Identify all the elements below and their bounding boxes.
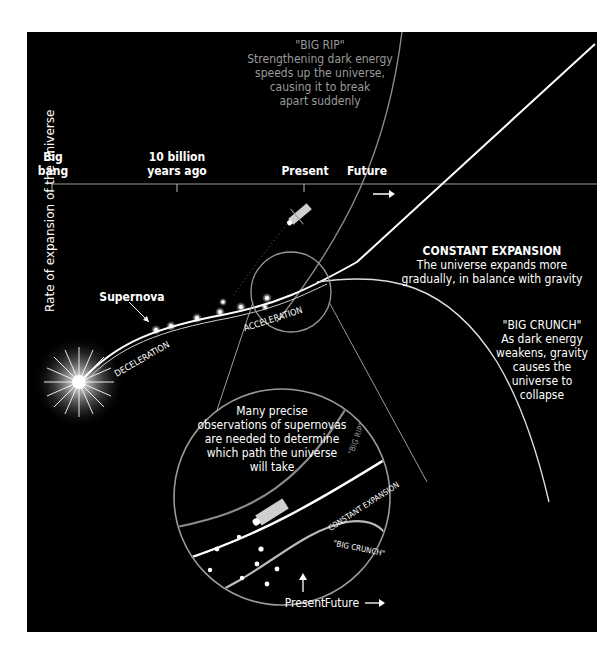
tick-label-big-bang: Bigbang [37,150,69,178]
supernova-label: Supernova [97,290,167,304]
inset-future-label: Future [317,596,367,610]
big-rip-description: "BIG RIP" Strengthening dark energy spee… [235,38,405,108]
constant-expansion-description: CONSTANT EXPANSION The universe expands … [387,244,597,286]
telescope-icon [281,199,315,232]
diagram-panel: Rate of expansion of the universe Bigban… [27,32,597,632]
tick-label-future: Future [342,164,392,178]
big-crunch-description: "BIG CRUNCH" As dark energy weakens, gra… [487,318,597,402]
timeline-axis [51,184,597,198]
tick-label-10-billion: 10 billionyears ago [137,150,217,178]
tick-label-present: Present [275,164,335,178]
inset-caption: Many precise observations of supernovas … [187,404,357,474]
